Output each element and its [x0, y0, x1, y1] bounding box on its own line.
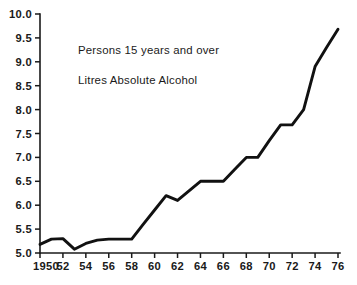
- x-tick-label: 74: [309, 260, 323, 272]
- y-tick-label: 5.5: [16, 223, 32, 235]
- y-tick-label: 7.5: [16, 128, 32, 140]
- x-tick-label: 58: [125, 260, 138, 272]
- x-tick-label: 54: [79, 260, 93, 272]
- x-tick-label: 52: [56, 260, 69, 272]
- x-tick-label: 70: [263, 260, 276, 272]
- x-tick-label: 1950: [33, 260, 59, 272]
- x-tick-label: 76: [331, 260, 344, 272]
- data-series-line: [40, 29, 338, 249]
- line-chart: 10.09.59.08.58.07.57.06.56.05.55.0 19505…: [0, 0, 357, 285]
- y-tick-label: 6.5: [16, 175, 32, 187]
- y-tick-label: 7.0: [16, 151, 32, 163]
- x-tick-label: 68: [240, 260, 253, 272]
- x-tick-label: 66: [217, 260, 230, 272]
- annotation-line-1: Persons 15 years and over: [78, 44, 219, 56]
- chart-annotations: Persons 15 years and over Litres Absolut…: [78, 44, 219, 86]
- x-tick-label: 62: [171, 260, 184, 272]
- y-tick-label: 6.0: [16, 199, 32, 211]
- x-tick-label: 56: [102, 260, 115, 272]
- y-tick-label: 10.0: [9, 8, 32, 20]
- chart-container: 10.09.59.08.58.07.57.06.56.05.55.0 19505…: [0, 0, 357, 285]
- y-tick-label: 9.0: [16, 56, 32, 68]
- y-axis-tick-labels: 10.09.59.08.58.07.57.06.56.05.55.0: [9, 8, 32, 259]
- y-tick-label: 5.0: [16, 247, 32, 259]
- x-tick-label: 64: [194, 260, 208, 272]
- annotation-line-2: Litres Absolute Alcohol: [78, 74, 197, 86]
- y-tick-label: 8.0: [16, 104, 32, 116]
- y-tick-label: 8.5: [16, 80, 32, 92]
- x-axis-tick-labels: 195052545658606264666870727476: [33, 260, 345, 272]
- x-tick-label: 72: [286, 260, 299, 272]
- y-tick-label: 9.5: [16, 32, 32, 44]
- x-tick-label: 60: [148, 260, 161, 272]
